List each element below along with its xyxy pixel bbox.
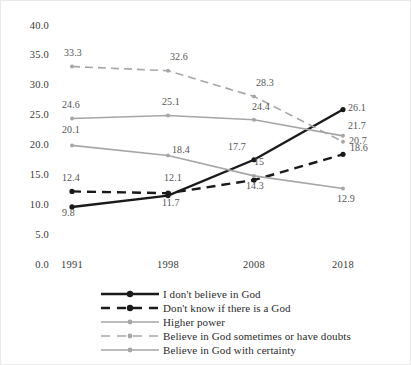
data-point-label: 12.4	[62, 172, 80, 183]
series-marker	[166, 69, 170, 73]
data-point-label: 32.6	[170, 51, 188, 62]
series-marker	[341, 134, 345, 138]
legend-key-icon	[99, 344, 161, 356]
legend-key-icon	[99, 302, 161, 314]
y-axis-tick-label: 25.0	[15, 109, 49, 120]
legend-key-icon	[99, 288, 161, 300]
legend-item[interactable]: I don't believe in God	[99, 287, 399, 301]
series-line	[72, 154, 343, 193]
data-point-label: 26.1	[348, 102, 366, 113]
legend-key-icon	[99, 330, 161, 342]
data-point-label: 20.7	[349, 135, 367, 146]
series-marker	[340, 152, 345, 157]
y-axis-tick-label: 10.0	[15, 199, 49, 210]
x-axis-tick-label: 1991	[45, 259, 99, 270]
series-marker	[252, 174, 256, 178]
series-marker	[341, 140, 345, 144]
series-line	[72, 67, 343, 142]
series-marker	[252, 118, 256, 122]
data-point-label: 12.9	[337, 193, 355, 204]
legend-item[interactable]: Higher power	[99, 315, 399, 329]
data-point-label: 28.3	[256, 77, 274, 88]
y-axis-tick-label: 35.0	[15, 49, 49, 60]
chart-legend: I don't believe in GodDon't know if ther…	[99, 287, 399, 357]
series-marker	[166, 154, 170, 158]
line-chart: 0.05.010.015.020.025.030.035.040.0 19911…	[0, 0, 411, 365]
y-axis-tick-label: 15.0	[15, 169, 49, 180]
legend-item[interactable]: Don't know if there is a God	[99, 301, 399, 315]
legend-item-label: I don't believe in God	[163, 288, 261, 300]
x-axis-tick-label: 1998	[141, 259, 195, 270]
series-marker	[252, 94, 256, 98]
data-point-label: 12.1	[164, 172, 182, 183]
legend-item-label: Believe in God with certainty	[163, 344, 296, 356]
y-axis-tick-label: 40.0	[15, 20, 49, 31]
data-point-label: 33.3	[64, 47, 82, 58]
x-axis-tick-label: 2018	[316, 259, 370, 270]
data-point-label: 14.3	[246, 180, 264, 191]
x-axis-tick-label: 2008	[227, 259, 281, 270]
legend-item-label: Believe in God sometimes or have doubts	[163, 330, 351, 342]
data-point-label: 25.1	[162, 96, 180, 107]
legend-item-label: Don't know if there is a God	[163, 302, 291, 314]
series-marker	[166, 114, 170, 118]
series-marker	[69, 189, 74, 194]
legend-item[interactable]: Believe in God with certainty	[99, 343, 399, 357]
series-marker	[340, 107, 345, 112]
data-point-label: 24.6	[62, 99, 80, 110]
data-point-label: 24.4	[252, 101, 270, 112]
series-marker	[70, 143, 74, 147]
data-point-label: 17.7	[228, 141, 246, 152]
data-point-label: 11.7	[162, 197, 180, 208]
data-point-label: 21.7	[348, 120, 366, 131]
series-marker	[165, 191, 170, 196]
series-marker	[70, 117, 74, 121]
series-line	[72, 110, 343, 207]
legend-item-label: Higher power	[163, 316, 225, 328]
y-axis-tick-label: 0.0	[15, 259, 49, 270]
y-axis-tick-label: 20.0	[15, 139, 49, 150]
y-axis-tick-label: 30.0	[15, 79, 49, 90]
data-point-label: 15	[254, 156, 264, 167]
data-point-label: 20.1	[62, 124, 80, 135]
series-marker	[341, 186, 345, 190]
legend-item[interactable]: Believe in God sometimes or have doubts	[99, 329, 399, 343]
data-point-label: 9.8	[62, 207, 75, 218]
data-point-label: 18.4	[172, 144, 190, 155]
legend-key-icon	[99, 316, 161, 328]
y-axis-tick-label: 5.0	[15, 229, 49, 240]
series-marker	[70, 65, 74, 69]
